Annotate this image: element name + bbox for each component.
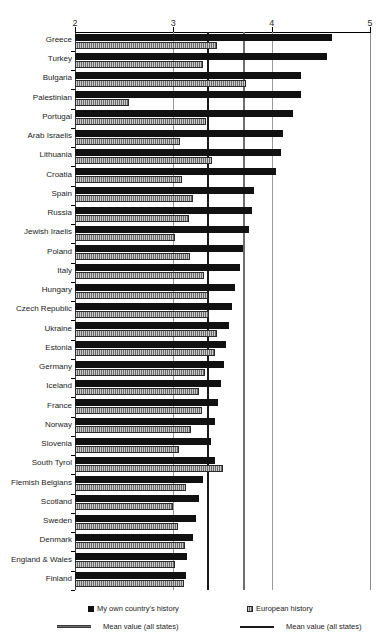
chart-row: England & Wales xyxy=(0,552,390,573)
legend-label-mean-european: Mean value (all states) xyxy=(286,622,361,631)
bar-own-history xyxy=(75,457,215,464)
legend-item-european-history: European history xyxy=(247,604,313,613)
bar-european-history xyxy=(75,118,206,125)
category-label-estonia: Estonia xyxy=(0,343,72,353)
chart-row: Hungary xyxy=(0,282,390,303)
category-label-finland: Finland xyxy=(0,574,72,584)
bar-european-history xyxy=(75,215,189,222)
category-label-flemish-belgians: Flemish Belgians xyxy=(0,478,72,488)
bar-own-history xyxy=(75,110,293,117)
chart-row: Sweden xyxy=(0,513,390,534)
bar-own-history xyxy=(75,476,203,483)
chart-row: Czech Republic xyxy=(0,301,390,322)
legend-swatch-mean-european-icon xyxy=(240,626,274,628)
bar-european-history xyxy=(75,426,191,433)
bar-european-history xyxy=(75,407,202,414)
category-label-jewish-iraelis: Jewish Iraelis xyxy=(0,227,72,237)
chart-row: Croatia xyxy=(0,167,390,188)
legend-label-european-history: European history xyxy=(256,604,313,613)
bar-own-history xyxy=(75,187,254,194)
chart-row: Slovenia xyxy=(0,436,390,457)
chart-row: Germany xyxy=(0,359,390,380)
bar-own-history xyxy=(75,534,193,541)
bar-european-history xyxy=(75,349,215,356)
chart-row: South Tyrol xyxy=(0,455,390,476)
chart-legend: My own country's history European histor… xyxy=(0,594,390,636)
bar-european-history xyxy=(75,561,175,568)
category-label-portugal: Portugal xyxy=(0,112,72,122)
category-label-italy: Italy xyxy=(0,266,72,276)
chart-row: Lithuania xyxy=(0,147,390,168)
category-label-spain: Spain xyxy=(0,189,72,199)
legend-item-own-history: My own country's history xyxy=(88,604,179,613)
chart-row: Italy xyxy=(0,263,390,284)
bar-european-history xyxy=(75,484,186,491)
bar-own-history xyxy=(75,34,332,41)
bar-own-history xyxy=(75,91,301,98)
category-label-slovenia: Slovenia xyxy=(0,439,72,449)
bar-own-history xyxy=(75,72,301,79)
bar-european-history xyxy=(75,99,129,106)
bar-european-history xyxy=(75,138,180,145)
legend-swatch-mean-own-icon xyxy=(57,625,91,628)
bar-european-history xyxy=(75,253,190,260)
chart-row: Portugal xyxy=(0,109,390,130)
bar-european-history xyxy=(75,176,182,183)
chart-row: Flemish Belgians xyxy=(0,475,390,496)
bar-european-history xyxy=(75,503,173,510)
bar-own-history xyxy=(75,438,211,445)
chart-row: Arab Israelis xyxy=(0,128,390,149)
chart-row: France xyxy=(0,398,390,419)
bar-own-history xyxy=(75,553,187,560)
bar-own-history xyxy=(75,495,199,502)
category-label-scotland: Scotland xyxy=(0,497,72,507)
category-label-norway: Norway xyxy=(0,420,72,430)
bar-european-history xyxy=(75,311,209,318)
bar-european-history xyxy=(75,446,179,453)
chart-row: Poland xyxy=(0,244,390,265)
chart-row: Turkey xyxy=(0,51,390,72)
chart-row: Jewish Iraelis xyxy=(0,224,390,245)
bar-european-history xyxy=(75,580,184,587)
chart-row: Iceland xyxy=(0,378,390,399)
bar-own-history xyxy=(75,130,283,137)
bar-own-history xyxy=(75,341,226,348)
bar-european-history xyxy=(75,234,175,241)
bar-european-history xyxy=(75,42,217,49)
bar-own-history xyxy=(75,53,327,60)
chart-row: Finland xyxy=(0,571,390,592)
category-label-iceland: Iceland xyxy=(0,381,72,391)
category-label-south-tyrol: South Tyrol xyxy=(0,458,72,468)
category-label-hungary: Hungary xyxy=(0,285,72,295)
bar-own-history xyxy=(75,572,186,579)
bar-own-history xyxy=(75,226,249,233)
category-label-bulgaria: Bulgaria xyxy=(0,73,72,83)
category-label-sweden: Sweden xyxy=(0,516,72,526)
bar-own-history xyxy=(75,361,224,368)
bar-own-history xyxy=(75,322,229,329)
bar-european-history xyxy=(75,195,193,202)
bar-own-history xyxy=(75,245,243,252)
chart-row: Spain xyxy=(0,186,390,207)
bar-european-history xyxy=(75,272,204,279)
chart-row: Russia xyxy=(0,205,390,226)
bar-own-history xyxy=(75,399,218,406)
legend-label-mean-own: Mean value (all states) xyxy=(103,622,178,631)
category-label-denmark: Denmark xyxy=(0,535,72,545)
category-label-france: France xyxy=(0,401,72,411)
bar-own-history xyxy=(75,264,240,271)
bar-own-history xyxy=(75,303,232,310)
bar-european-history xyxy=(75,523,178,530)
bar-european-history xyxy=(75,388,199,395)
category-label-poland: Poland xyxy=(0,247,72,257)
category-label-greece: Greece xyxy=(0,35,72,45)
bar-european-history xyxy=(75,292,208,299)
legend-swatch-european-history-icon xyxy=(247,606,253,612)
bar-own-history xyxy=(75,168,276,175)
bar-european-history xyxy=(75,80,246,87)
chart-row: Norway xyxy=(0,417,390,438)
bar-european-history xyxy=(75,61,203,68)
legend-item-mean-own: Mean value (all states) xyxy=(57,622,178,631)
bar-european-history xyxy=(75,465,223,472)
chart-row: Bulgaria xyxy=(0,70,390,91)
